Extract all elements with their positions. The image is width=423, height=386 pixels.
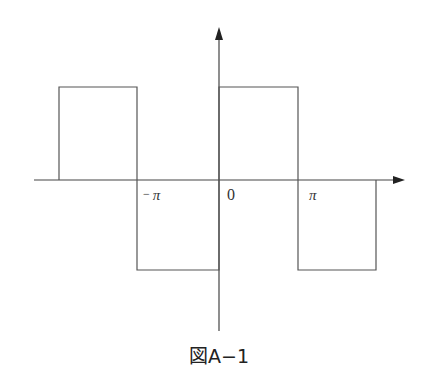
tick-label-pi: π <box>309 188 317 203</box>
wave-segment-left-positive <box>59 87 137 180</box>
square-wave-figure <box>0 0 423 386</box>
x-axis-arrow-icon <box>393 176 405 184</box>
tick-label-minus-pi: −π <box>143 188 160 203</box>
square-wave <box>59 87 376 270</box>
wave-segment-right-positive <box>219 87 298 180</box>
y-axis-arrow-icon <box>215 27 223 40</box>
minus-sign: − <box>143 187 150 201</box>
pi-symbol: π <box>153 187 161 203</box>
tick-label-zero: 0 <box>227 187 235 203</box>
figure-caption: 図A−1 <box>0 347 423 366</box>
